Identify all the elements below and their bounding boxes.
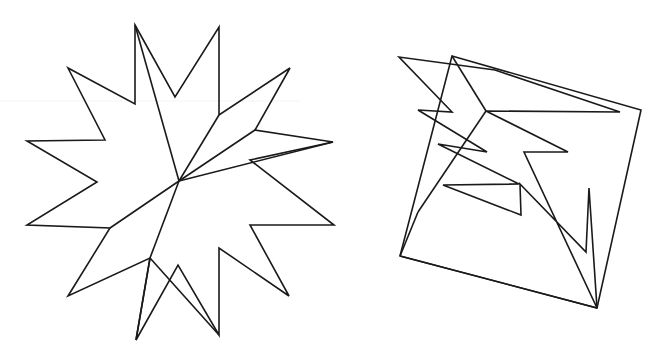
- quad-outer-outline: [400, 56, 641, 308]
- star-inner-fan-spoke-1: [135, 25, 179, 181]
- star-inner-fan-spoke-4: [179, 142, 333, 181]
- drawing-canvas: [0, 0, 671, 359]
- star-inner-lower-chord: [110, 181, 179, 228]
- star-inner-fan-spoke-2: [179, 115, 219, 181]
- star-inner-lower-right-chord: [150, 181, 179, 258]
- line-drawing-svg: [0, 0, 671, 359]
- star-inner-fan-spoke-3: [179, 130, 255, 181]
- tilted-quadrilateral-figure: [399, 56, 641, 308]
- jagged-star-figure: [27, 25, 334, 340]
- quad-inner-chord-bottom: [400, 256, 597, 308]
